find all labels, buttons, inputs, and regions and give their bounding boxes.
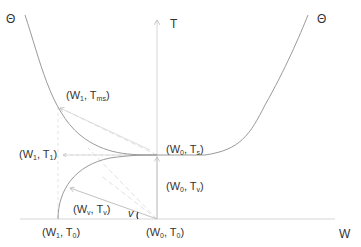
- theta-left-label: Θ: [6, 13, 15, 25]
- point-label-w0-ts: (W0, Ts): [166, 144, 204, 156]
- t-axis-label: T: [170, 18, 177, 30]
- angle-arc: [137, 212, 138, 219]
- point-label-w1-t0: (W1, T0): [42, 227, 80, 239]
- diagram-canvas: [0, 0, 361, 247]
- theta-right-label: Θ: [317, 13, 326, 25]
- point-label-w1-t1: (W1, T1): [19, 149, 57, 161]
- theta-curve: [25, 15, 308, 155]
- angle-label: v: [128, 208, 134, 219]
- point-label-w0-tv: (W0, Tv): [166, 181, 204, 193]
- w-axis-label: W: [339, 228, 350, 240]
- point-label-w1-tms: (W1, Tms): [66, 90, 110, 102]
- point-label-w0-t0: (W0, T0): [146, 227, 184, 239]
- point-label-wv-tv: (Wv, Tv): [73, 204, 110, 216]
